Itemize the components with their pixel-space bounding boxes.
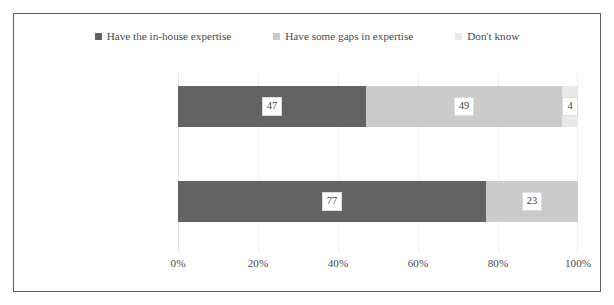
x-tick-label-80: 80% bbox=[488, 258, 509, 269]
bar-segment-some-gaps-in-expertise[interactable]: 49 bbox=[366, 86, 562, 127]
x-tick-label-100: 100% bbox=[565, 258, 591, 269]
legend-item-label: Have some gaps in expertise bbox=[285, 31, 413, 42]
chart-frame: Have the in-house expertise Have some ga… bbox=[13, 13, 601, 292]
bar-value-label: 4 bbox=[562, 97, 577, 117]
legend-item-have-some-gaps-in-expertise[interactable]: Have some gaps in expertise bbox=[273, 31, 413, 42]
x-tick-label-60: 60% bbox=[408, 258, 429, 269]
square-marker-icon bbox=[455, 33, 462, 40]
bar-value-label: 77 bbox=[322, 192, 343, 212]
x-tick-label-40: 40% bbox=[328, 258, 349, 269]
plot-area: 47 49 4 77 23 bbox=[178, 73, 578, 253]
bar-segment-in-house-expertise[interactable]: 77 bbox=[178, 181, 486, 222]
x-tick-label-20: 20% bbox=[248, 258, 269, 269]
legend-item-have-the-in-house-expertise[interactable]: Have the in-house expertise bbox=[95, 31, 232, 42]
bar-value-label: 47 bbox=[262, 97, 283, 117]
bar-segment-in-house-expertise[interactable]: 47 bbox=[178, 86, 366, 127]
legend-item-label: Don't know bbox=[467, 31, 519, 42]
legend-item-dont-know[interactable]: Don't know bbox=[455, 31, 519, 42]
square-marker-icon bbox=[95, 33, 102, 40]
chart-legend: Have the in-house expertise Have some ga… bbox=[14, 31, 600, 42]
bar-segment-some-gaps-in-expertise[interactable]: 23 bbox=[486, 181, 578, 222]
x-tick-label-0: 0% bbox=[171, 258, 186, 269]
bar-value-label: 23 bbox=[522, 192, 543, 212]
x-axis: 0% 20% 40% 60% 80% 100% bbox=[178, 258, 578, 274]
bar-segment-dont-know[interactable]: 4 bbox=[562, 86, 578, 127]
bar-row-over-100k: 77 23 bbox=[178, 181, 578, 222]
square-marker-icon bbox=[273, 33, 280, 40]
bar-row-100k-and-below: 47 49 4 bbox=[178, 86, 578, 127]
bar-value-label: 49 bbox=[454, 97, 475, 117]
legend-item-label: Have the in-house expertise bbox=[107, 31, 232, 42]
